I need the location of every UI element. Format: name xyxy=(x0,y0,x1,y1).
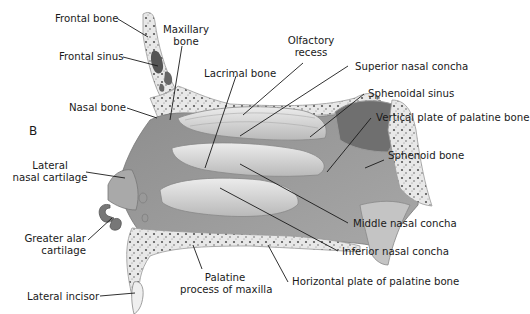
anatomy-figure: B Frontal bone Frontal sinus Maxillary b… xyxy=(0,0,530,314)
label-lateral-nasal-cartilage-line2: nasal cartilage xyxy=(10,172,90,184)
label-frontal-bone: Frontal bone xyxy=(55,13,119,25)
label-frontal-sinus: Frontal sinus xyxy=(59,51,123,63)
label-olfactory-recess-line1: Olfactory xyxy=(283,35,339,47)
label-greater-alar-cartilage-line1: Greater alar xyxy=(22,233,86,245)
label-maxillary-bone-line2: bone xyxy=(160,36,212,48)
label-lateral-nasal-cartilage: Lateral nasal cartilage xyxy=(10,160,90,184)
label-lateral-nasal-cartilage-line1: Lateral xyxy=(10,160,90,172)
label-greater-alar-cartilage: Greater alar cartilage xyxy=(22,233,86,257)
label-maxillary-bone: Maxillary bone xyxy=(160,24,212,48)
label-vertical-plate-palatine: Vertical plate of palatine bone xyxy=(376,112,529,124)
label-sphenoidal-sinus: Sphenoidal sinus xyxy=(368,88,454,100)
label-olfactory-recess: Olfactory recess xyxy=(283,35,339,59)
label-palatine-process-line2: process of maxilla xyxy=(180,284,270,296)
label-middle-nasal-concha: Middle nasal concha xyxy=(353,218,457,230)
label-superior-nasal-concha: Superior nasal concha xyxy=(355,61,468,73)
label-greater-alar-cartilage-line2: cartilage xyxy=(22,245,86,257)
label-sphenoid-bone: Sphenoid bone xyxy=(388,150,464,162)
label-maxillary-bone-line1: Maxillary xyxy=(160,24,212,36)
label-inferior-nasal-concha: Inferior nasal concha xyxy=(342,246,449,258)
label-nasal-bone: Nasal bone xyxy=(69,102,126,114)
panel-letter: B xyxy=(29,124,37,138)
label-horizontal-plate-palatine: Horizontal plate of palatine bone xyxy=(292,276,459,288)
label-lateral-incisor: Lateral incisor xyxy=(27,291,99,303)
label-lacrimal-bone: Lacrimal bone xyxy=(204,68,276,80)
label-olfactory-recess-line2: recess xyxy=(283,47,339,59)
label-palatine-process-line1: Palatine xyxy=(180,272,270,284)
palatine-process-shape xyxy=(127,228,360,314)
label-palatine-process: Palatine process of maxilla xyxy=(180,272,270,296)
